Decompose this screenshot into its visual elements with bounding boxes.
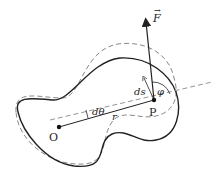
dtheta-marker	[86, 110, 88, 118]
displaced-curve	[16, 43, 176, 164]
radius-line	[59, 100, 154, 127]
force-vector	[146, 22, 154, 100]
vector-bar: →	[154, 6, 161, 15]
torque-diagram: F → P O ds φ dθ r	[0, 0, 224, 179]
label-origin: O	[49, 131, 58, 144]
label-dtheta: dθ	[92, 106, 104, 117]
label-r: r	[112, 111, 118, 122]
label-ds: ds	[134, 86, 146, 97]
label-phi: φ	[157, 86, 164, 97]
label-p: P	[149, 106, 157, 119]
point-origin	[57, 125, 61, 129]
point-p	[152, 98, 156, 102]
